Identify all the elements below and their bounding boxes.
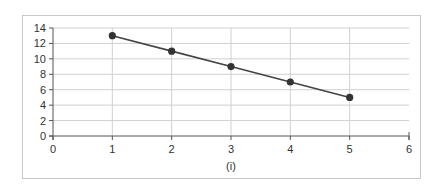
axes: [49, 28, 409, 140]
x-axis-ticks: 0123456: [50, 136, 412, 155]
y-tick-label: 6: [40, 84, 46, 96]
data-point-marker: [109, 32, 116, 39]
x-tick-label: 5: [347, 143, 353, 155]
x-tick-label: 0: [50, 143, 56, 155]
data-point-marker: [227, 63, 234, 70]
gridlines: [53, 28, 409, 136]
x-axis-label: (i): [226, 160, 236, 172]
x-tick-label: 1: [109, 143, 115, 155]
x-tick-label: 2: [169, 143, 175, 155]
line-chart: 02468101214 0123456 (i): [0, 0, 445, 188]
y-tick-label: 4: [40, 99, 46, 111]
y-axis-ticks: 02468101214: [34, 22, 53, 142]
x-tick-label: 6: [406, 143, 412, 155]
data-point-marker: [346, 94, 353, 101]
data-point-marker: [168, 48, 175, 55]
x-tick-label: 3: [228, 143, 234, 155]
x-tick-label: 4: [287, 143, 293, 155]
y-tick-label: 2: [40, 115, 46, 127]
data-point-marker: [287, 78, 294, 85]
y-tick-label: 10: [34, 53, 46, 65]
y-tick-label: 8: [40, 68, 46, 80]
y-tick-label: 12: [34, 37, 46, 49]
y-tick-label: 0: [40, 130, 46, 142]
y-tick-label: 14: [34, 22, 46, 34]
